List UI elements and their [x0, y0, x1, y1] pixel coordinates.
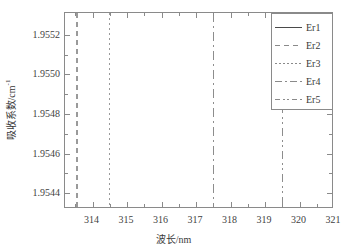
data-line-er4 — [213, 13, 214, 207]
legend-line-sample-icon — [275, 42, 302, 49]
legend-item-er4: Er4 — [272, 72, 332, 90]
legend-line-stroke — [275, 63, 302, 64]
x-tick-major — [196, 13, 197, 18]
y-tick-label: 1.9548 — [22, 107, 60, 118]
x-tick-label: 321 — [326, 214, 341, 225]
x-tick-major — [162, 13, 163, 18]
x-tick-minor — [179, 13, 180, 16]
legend-item-label: Er4 — [306, 76, 320, 87]
x-tick-major — [162, 202, 163, 207]
y-tick-label: 1.9552 — [22, 28, 60, 39]
x-tick-minor — [213, 204, 214, 207]
y-tick-minor — [329, 173, 332, 174]
legend-line-stroke — [275, 99, 302, 100]
y-tick-minor — [65, 55, 68, 56]
legend-item-er1: Er1 — [272, 18, 332, 36]
legend-line-stroke — [275, 27, 302, 28]
y-axis-title-exponent: -1 — [4, 80, 12, 86]
y-tick-major — [327, 154, 332, 155]
legend-line-sample-icon — [275, 78, 302, 85]
x-tick-major — [127, 202, 128, 207]
legend-item-label: Er2 — [306, 40, 320, 51]
x-tick-minor — [317, 204, 318, 207]
y-tick-minor — [65, 173, 68, 174]
x-tick-label: 318 — [222, 214, 237, 225]
x-tick-major — [231, 13, 232, 18]
y-tick-label: 1.9550 — [22, 68, 60, 79]
x-tick-label: 317 — [188, 214, 203, 225]
x-tick-minor — [75, 13, 76, 16]
legend-item-er5: Er5 — [272, 90, 332, 108]
y-tick-major — [65, 74, 70, 75]
x-tick-minor — [248, 204, 249, 207]
x-tick-minor — [144, 13, 145, 16]
legend-box: Er1Er2Er3Er4Er5 — [271, 13, 333, 110]
legend-line-sample-icon — [275, 24, 302, 31]
x-tick-minor — [213, 13, 214, 16]
y-tick-label: 1.9546 — [22, 147, 60, 158]
legend-item-label: Er1 — [306, 22, 320, 33]
legend-line-sample-icon — [275, 60, 302, 67]
x-tick-major — [265, 202, 266, 207]
legend-item-er2: Er2 — [272, 36, 332, 54]
x-tick-minor — [144, 204, 145, 207]
x-tick-major — [231, 202, 232, 207]
x-tick-minor — [75, 204, 76, 207]
x-tick-major — [265, 13, 266, 18]
x-tick-minor — [110, 204, 111, 207]
data-line-er3 — [109, 13, 110, 207]
x-tick-minor — [282, 204, 283, 207]
x-tick-label: 319 — [257, 214, 272, 225]
x-tick-minor — [248, 13, 249, 16]
x-tick-major — [196, 202, 197, 207]
x-tick-minor — [110, 13, 111, 16]
legend-item-label: Er5 — [306, 94, 320, 105]
y-tick-major — [327, 114, 332, 115]
legend-item-er3: Er3 — [272, 54, 332, 72]
y-tick-minor — [65, 134, 68, 135]
y-axis-title-text: 吸收系数/cm — [6, 85, 17, 140]
plot-area: Er1Er2Er3Er4Er5 — [64, 12, 333, 208]
legend-line-stroke — [275, 45, 302, 46]
x-tick-minor — [179, 204, 180, 207]
y-tick-major — [65, 35, 70, 36]
data-line-er2 — [76, 13, 77, 207]
y-tick-label: 1.9544 — [22, 187, 60, 198]
y-tick-minor — [329, 134, 332, 135]
y-tick-major — [327, 193, 332, 194]
x-tick-label: 314 — [84, 214, 99, 225]
legend-line-stroke — [275, 81, 302, 82]
y-tick-major — [65, 154, 70, 155]
x-tick-label: 315 — [119, 214, 134, 225]
x-tick-major — [93, 13, 94, 18]
legend-item-label: Er3 — [306, 58, 320, 69]
x-tick-label: 316 — [153, 214, 168, 225]
y-tick-major — [65, 193, 70, 194]
y-axis-title: 吸收系数/cm-1 — [3, 80, 18, 141]
y-tick-minor — [65, 94, 68, 95]
x-tick-major — [300, 202, 301, 207]
y-tick-major — [65, 114, 70, 115]
y-axis-title-wrapper: 吸收系数/cm-1 — [2, 0, 18, 251]
x-tick-major — [127, 13, 128, 18]
x-tick-label: 320 — [291, 214, 306, 225]
chart-figure: Er1Er2Er3Er4Er5 314315316317318319320321… — [0, 0, 347, 251]
x-tick-major — [93, 202, 94, 207]
legend-line-sample-icon — [275, 96, 302, 103]
x-axis-title: 波长/nm — [0, 231, 347, 246]
